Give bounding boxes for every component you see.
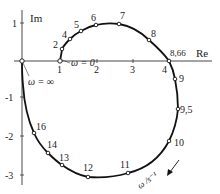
- point-label: 4: [62, 29, 67, 40]
- nyquist-curve: [22, 23, 178, 177]
- marker-6: [94, 23, 98, 27]
- arrow-shaft: [170, 160, 179, 172]
- point-label: 6: [91, 12, 96, 23]
- marker-10: [167, 139, 171, 143]
- direction-arrow: ω /s⁻¹: [135, 160, 179, 191]
- y-tick-label: -1: [5, 92, 13, 103]
- point-label: 10: [174, 137, 184, 148]
- nyquist-diagram: Re Im 1 2 3 4 1 -1 -2 -3 2 4 5 6: [0, 0, 220, 194]
- marker-7: [117, 22, 121, 26]
- point-label: 12: [83, 162, 93, 173]
- marker-5: [79, 29, 83, 33]
- marker-14: [46, 151, 50, 155]
- point-labels: 2 4 5 6 7 8 8,66 9 9,5 10 11 12 13 14 16: [36, 10, 193, 173]
- marker-11: [126, 171, 130, 175]
- marker-12: [86, 175, 90, 179]
- marker-omega-inf: [20, 59, 24, 63]
- x-axis-label: Re: [196, 47, 208, 59]
- marker-omega-zero: [58, 59, 62, 63]
- point-label: 2: [53, 39, 58, 50]
- marker-2: [60, 47, 64, 51]
- marker-13: [60, 163, 64, 167]
- point-label: 5: [74, 19, 79, 30]
- marker-9: [173, 77, 177, 81]
- x-tick-label: 4: [162, 64, 167, 75]
- axes: Re Im 1 2 3 4 1 -1 -2 -3: [5, 10, 212, 185]
- y-axis-label: Im: [30, 12, 43, 24]
- point-label: 16: [36, 121, 46, 132]
- x-tick-label: 3: [130, 64, 135, 75]
- y-tick-label: 1: [12, 18, 17, 29]
- omega-unit-label: ω /s⁻¹: [135, 170, 159, 191]
- arrow-head-icon: [167, 169, 173, 176]
- point-label: 8: [151, 28, 156, 39]
- point-label: 9,5: [180, 104, 193, 115]
- y-tick-label: -2: [5, 131, 13, 142]
- y-tick-label: -3: [5, 170, 13, 181]
- omega-zero-label: ω = 0: [71, 57, 95, 68]
- marker-8-66: [167, 59, 171, 63]
- point-label: 14: [47, 139, 57, 150]
- point-label: 8,66: [170, 48, 186, 58]
- omega-zero-leader: [62, 60, 70, 63]
- omega-inf-leader: [23, 63, 29, 76]
- point-label: 9: [179, 73, 184, 84]
- marker-4: [68, 37, 72, 41]
- omega-inf-label: ω = ∞: [28, 76, 54, 87]
- point-label: 7: [120, 10, 125, 21]
- point-label: 11: [120, 159, 130, 170]
- x-tick-label: 1: [57, 64, 62, 75]
- point-label: 13: [59, 152, 69, 163]
